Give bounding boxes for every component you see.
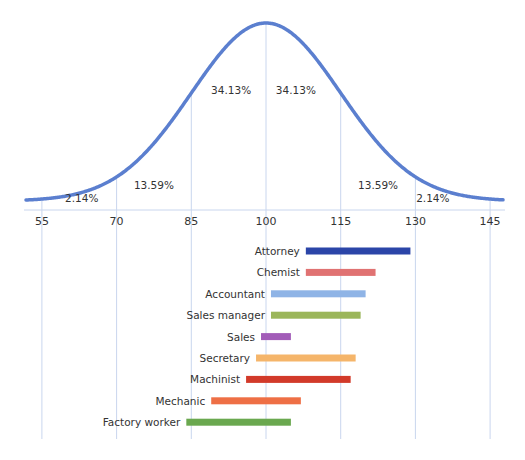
bar-machinist: [246, 376, 351, 383]
bar-label: Factory worker: [103, 416, 181, 428]
iq-occupation-chart: 557085100115130145 2.14%13.59%34.13%34.1…: [0, 0, 525, 460]
bar-row-accountant: Accountant: [205, 288, 365, 300]
tick-label-85: 85: [184, 215, 198, 228]
region-label-1: 13.59%: [134, 179, 174, 191]
tick-label-100: 100: [256, 215, 277, 228]
bar-label: Mechanic: [155, 395, 205, 407]
tick-label-145: 145: [480, 215, 501, 228]
region-label-5: 2.14%: [416, 192, 449, 204]
bar-label: Secretary: [200, 352, 251, 364]
bar-mechanic: [211, 397, 301, 404]
bar-row-machinist: Machinist: [190, 373, 351, 385]
bar-factory-worker: [186, 419, 291, 426]
bar-secretary: [256, 355, 356, 362]
region-label-4: 13.59%: [358, 179, 398, 191]
bar-label: Chemist: [257, 266, 300, 278]
bar-row-attorney: Attorney: [255, 245, 411, 257]
bar-row-secretary: Secretary: [200, 352, 356, 364]
region-percent-labels: 2.14%13.59%34.13%34.13%13.59%2.14%: [65, 84, 449, 204]
tick-label-70: 70: [110, 215, 124, 228]
occupation-bars: AttorneyChemistAccountantSales managerSa…: [103, 245, 411, 428]
bar-row-factory-worker: Factory worker: [103, 416, 291, 428]
bar-row-sales: Sales: [227, 331, 291, 343]
bar-label: Attorney: [255, 245, 300, 257]
bar-sales-manager: [271, 312, 361, 319]
tick-label-55: 55: [35, 215, 49, 228]
bar-row-chemist: Chemist: [257, 266, 376, 278]
bar-sales: [261, 333, 291, 340]
normal-curve: [26, 23, 503, 200]
x-axis-ticks: 557085100115130145: [35, 215, 501, 228]
bar-accountant: [271, 290, 366, 297]
bar-label: Sales: [227, 331, 255, 343]
bar-label: Machinist: [190, 373, 240, 385]
bar-attorney: [306, 248, 411, 255]
bar-chemist: [306, 269, 376, 276]
bar-row-mechanic: Mechanic: [155, 395, 300, 407]
bar-label: Sales manager: [186, 309, 265, 321]
region-label-3: 34.13%: [276, 84, 316, 96]
tick-label-130: 130: [405, 215, 426, 228]
bar-label: Accountant: [205, 288, 265, 300]
bar-row-sales-manager: Sales manager: [186, 309, 360, 321]
region-label-0: 2.14%: [65, 192, 98, 204]
region-label-2: 34.13%: [211, 84, 251, 96]
tick-label-115: 115: [330, 215, 351, 228]
